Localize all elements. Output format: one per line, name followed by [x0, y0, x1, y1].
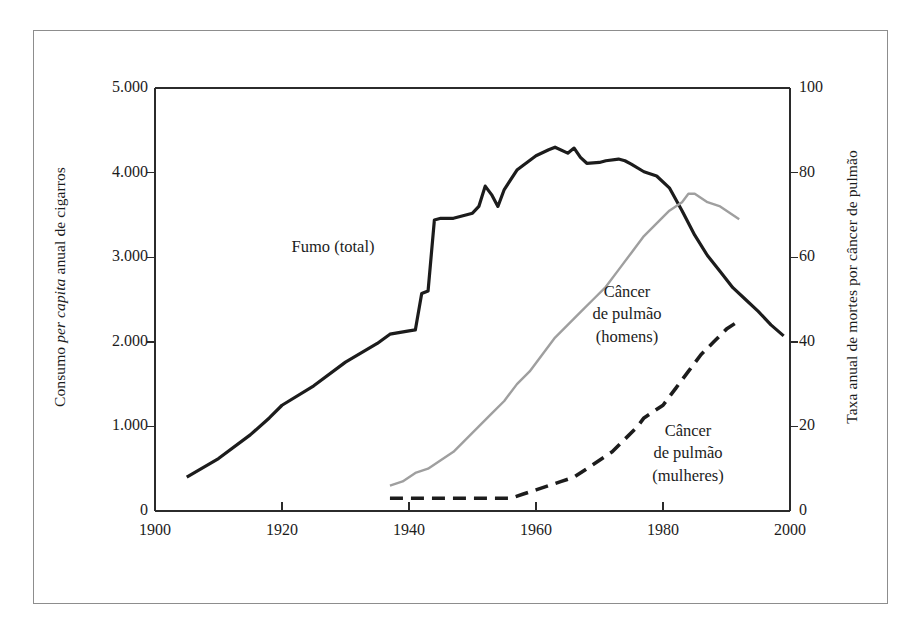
x-tick-1980: 1980	[628, 521, 698, 539]
y-right-tick-60: 60	[799, 247, 859, 265]
y-left-tick-3000: 3.000	[74, 247, 148, 265]
y-right-tick-20: 20	[799, 416, 859, 434]
y-left-tick-1000: 1.000	[74, 416, 148, 434]
series-label-lung-men-line-2: de pulmão	[552, 303, 702, 325]
y-right-tick-80: 80	[799, 163, 859, 181]
series-label-lung-women: Câncer de pulmão (mulheres)	[608, 420, 768, 487]
series-label-lung-men-line-3: (homens)	[552, 326, 702, 348]
series-label-lung-women-line-2: de pulmão	[608, 442, 768, 464]
x-tick-1920: 1920	[247, 521, 317, 539]
y-left-tick-4000: 4.000	[74, 163, 148, 181]
series-label-lung-women-line-1: Câncer	[608, 420, 768, 442]
series-label-lung-men: Câncer de pulmão (homens)	[552, 281, 702, 348]
y-left-tick-2000: 2.000	[74, 332, 148, 350]
y-left-tick-0: 0	[74, 501, 148, 519]
series-label-lung-women-line-3: (mulheres)	[608, 465, 768, 487]
y-left-title-italic: per capita	[51, 279, 68, 343]
y-left-title-suffix: anual de cigarros	[51, 167, 68, 279]
figure-container: Consumo per capita anual de cigarros Tax…	[0, 0, 905, 622]
series-label-lung-men-line-1: Câncer	[552, 281, 702, 303]
y-right-tick-0: 0	[799, 501, 859, 519]
x-tick-1940: 1940	[374, 521, 444, 539]
y-left-tick-5000: 5.000	[74, 78, 148, 96]
x-tick-1960: 1960	[501, 521, 571, 539]
y-right-tick-100: 100	[799, 78, 859, 96]
y-axis-right-title: Taxa anual de mortes por câncer de pulmã…	[843, 107, 861, 467]
y-axis-left-title: Consumo per capita anual de cigarros	[51, 107, 69, 467]
series-label-smoking-line-1: Fumo (total)	[253, 236, 413, 258]
x-tick-1900: 1900	[120, 521, 190, 539]
y-left-title-prefix: Consumo	[51, 343, 68, 407]
series-label-smoking: Fumo (total)	[253, 236, 413, 258]
x-tick-2000: 2000	[755, 521, 825, 539]
y-right-tick-40: 40	[799, 332, 859, 350]
